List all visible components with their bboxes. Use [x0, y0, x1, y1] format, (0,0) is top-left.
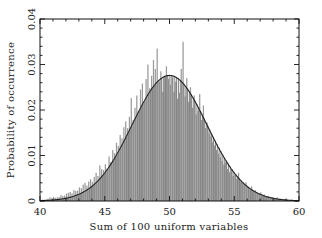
histogram-bar: [108, 156, 109, 201]
y-tick-label: 0.03: [26, 53, 37, 75]
histogram-bar: [236, 179, 237, 201]
histogram-bar: [205, 128, 206, 201]
histogram-bar: [262, 196, 263, 201]
histogram-bar: [256, 193, 257, 201]
histogram-bar: [242, 183, 243, 201]
histogram-bar: [192, 108, 193, 201]
histogram-bar: [77, 191, 78, 201]
histogram-bar: [258, 194, 259, 201]
histogram-bar: [162, 92, 163, 201]
x-tick-label: 55: [228, 206, 241, 217]
histogram-bar: [110, 162, 111, 201]
histogram-bar: [133, 120, 134, 201]
histogram-bar: [160, 71, 161, 201]
histogram-bar: [218, 154, 219, 201]
x-tick-label: 60: [293, 206, 306, 217]
histogram-bar: [92, 182, 93, 201]
histogram-bar: [201, 120, 202, 201]
histogram-bar: [96, 173, 97, 201]
histogram-bar: [94, 177, 95, 201]
histogram-bar: [70, 192, 71, 201]
histogram-bar: [249, 189, 250, 201]
histogram-bar: [60, 195, 61, 201]
histogram-bar: [125, 121, 126, 201]
x-axis-title: Sum of 100 uniform variables: [90, 221, 249, 232]
y-tick-labels: 00.010.020.030.04: [26, 8, 37, 204]
histogram-bar: [170, 85, 171, 201]
x-tick-label: 40: [34, 206, 47, 217]
histogram-bar: [81, 188, 82, 201]
histogram-bar: [144, 102, 145, 201]
histogram-bar: [188, 102, 189, 201]
histogram-bar: [229, 172, 230, 201]
histogram-bar: [120, 135, 121, 201]
histogram-bar: [186, 78, 187, 201]
histogram-bar: [225, 162, 226, 201]
histogram-bar: [208, 134, 209, 201]
histogram-bar: [232, 176, 233, 201]
histogram-bar: [99, 166, 100, 201]
histogram-bar: [153, 60, 154, 201]
histogram-bar: [190, 87, 191, 201]
histogram-bar: [134, 108, 135, 201]
histogram-bar: [166, 66, 167, 201]
histogram-bar: [195, 115, 196, 201]
histogram-bar: [157, 49, 158, 201]
histogram-bar: [138, 112, 139, 201]
x-tick-label: 50: [163, 206, 176, 217]
histogram-bars: [40, 42, 299, 201]
histogram-bar: [177, 99, 178, 201]
histogram-bar: [221, 161, 222, 201]
histogram-bar: [181, 69, 182, 201]
histogram-bar: [171, 77, 172, 201]
histogram-bar: [184, 96, 185, 201]
histogram-bar: [151, 76, 152, 201]
histogram-bar: [240, 181, 241, 201]
histogram-bar: [121, 138, 122, 201]
histogram-bar: [216, 150, 217, 201]
histogram-bar: [68, 193, 69, 201]
histogram-bar: [173, 92, 174, 201]
histogram-bar: [227, 169, 228, 201]
histogram-bar: [86, 186, 87, 201]
histogram-bar: [116, 143, 117, 201]
histogram-bar: [223, 165, 224, 201]
histogram-bar: [219, 157, 220, 201]
histogram-bar: [253, 191, 254, 201]
histogram-bar: [114, 153, 115, 201]
y-axis-title: Probability of occurrence: [5, 42, 16, 178]
histogram-bar: [118, 146, 119, 201]
histogram-bar: [182, 42, 183, 201]
histogram-bar: [101, 169, 102, 201]
histogram-bar: [194, 95, 195, 201]
histogram-bar: [105, 164, 106, 201]
histogram-bar: [179, 93, 180, 201]
histogram-bar: [164, 76, 165, 201]
histogram-bar: [212, 142, 213, 201]
histogram-bar: [155, 69, 156, 201]
histogram-bar: [175, 82, 176, 201]
histogram-bar: [168, 79, 169, 201]
x-tick-label: 45: [98, 206, 111, 217]
y-tick-label: 0: [26, 198, 37, 204]
y-tick-label: 0.04: [26, 8, 37, 30]
histogram-bar: [210, 136, 211, 201]
histogram-bar: [107, 168, 108, 201]
histogram-bar: [158, 82, 159, 201]
histogram-bar: [123, 127, 124, 201]
histogram-bar: [197, 111, 198, 201]
histogram-bar: [131, 98, 132, 201]
histogram-bar: [207, 123, 208, 201]
histogram-bar: [136, 95, 137, 201]
histogram-bar: [251, 186, 252, 201]
histogram-bar: [112, 150, 113, 201]
histogram-bar: [149, 88, 150, 201]
histogram-bar: [244, 185, 245, 201]
histogram-bar: [90, 179, 91, 201]
histogram-bar: [214, 145, 215, 201]
histogram-bar: [88, 181, 89, 201]
histogram-bar: [127, 128, 128, 201]
histogram-bar: [231, 170, 232, 201]
x-tick-labels: 4045505560: [34, 206, 306, 217]
histogram-bar: [142, 84, 143, 201]
